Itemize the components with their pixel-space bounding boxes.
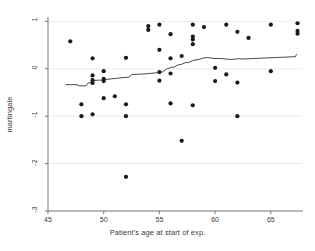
y-tick-label: 1 bbox=[31, 12, 38, 28]
x-tick-label: 65 bbox=[261, 216, 281, 223]
x-tick-label: 60 bbox=[205, 216, 225, 223]
axis-lines bbox=[48, 17, 303, 211]
x-tick-label: 50 bbox=[94, 216, 114, 223]
x-tick-label: 45 bbox=[38, 216, 58, 223]
y-tick-label: -3 bbox=[31, 202, 38, 218]
y-tick-label: 0 bbox=[31, 59, 38, 75]
x-tick-label: 55 bbox=[149, 216, 169, 223]
y-axis-title: martingale bbox=[5, 75, 14, 155]
trend-line bbox=[66, 55, 297, 86]
scatter-plot-canvas bbox=[0, 0, 315, 251]
y-tick-label: -2 bbox=[31, 154, 38, 170]
data-points bbox=[68, 21, 299, 179]
y-tick-label: -1 bbox=[31, 107, 38, 123]
chart-figure: Patient's age at start of exp. martingal… bbox=[0, 0, 315, 251]
grid-lines bbox=[48, 21, 302, 211]
x-axis-title: Patient's age at start of exp. bbox=[0, 228, 315, 237]
